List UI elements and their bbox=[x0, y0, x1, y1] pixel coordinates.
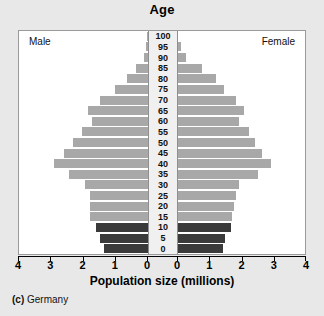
age-label-30: 30 bbox=[149, 180, 177, 190]
male-series-label: Male bbox=[29, 36, 51, 47]
age-label-45: 45 bbox=[149, 148, 177, 158]
bar-male-age-60 bbox=[92, 117, 148, 126]
bar-female-age-25 bbox=[176, 191, 236, 200]
bar-female-age-40 bbox=[176, 159, 271, 168]
age-label-35: 35 bbox=[149, 169, 177, 179]
female-panel bbox=[176, 31, 305, 254]
x-tick-label-left-4: 4 bbox=[8, 259, 28, 271]
chart-title: Age bbox=[0, 2, 324, 17]
x-axis-title: Population size (millions) bbox=[0, 274, 324, 288]
bar-male-age-70 bbox=[100, 96, 148, 105]
bar-female-age-60 bbox=[176, 117, 239, 126]
bar-female-age-10 bbox=[176, 223, 231, 232]
bar-female-age-0 bbox=[176, 244, 223, 253]
bar-male-age-55 bbox=[82, 127, 148, 136]
age-label-25: 25 bbox=[149, 191, 177, 201]
x-axis-line bbox=[18, 256, 306, 257]
bar-male-age-15 bbox=[90, 212, 148, 221]
age-label-10: 10 bbox=[149, 222, 177, 232]
bar-female-age-15 bbox=[176, 212, 232, 221]
bar-female-age-50 bbox=[176, 138, 255, 147]
bar-female-age-20 bbox=[176, 202, 234, 211]
age-label-80: 80 bbox=[149, 74, 177, 84]
population-pyramid-figure: Age Male Female 100959085807570656055504… bbox=[0, 0, 324, 316]
bar-male-age-75 bbox=[115, 85, 148, 94]
age-label-15: 15 bbox=[149, 212, 177, 222]
x-tick-label-right-4: 4 bbox=[296, 259, 316, 271]
age-label-65: 65 bbox=[149, 106, 177, 116]
plot-area: Male Female 1009590858075706560555045403… bbox=[18, 30, 306, 255]
bar-male-age-35 bbox=[69, 170, 148, 179]
bar-female-age-45 bbox=[176, 149, 262, 158]
bar-female-age-65 bbox=[176, 106, 244, 115]
age-label-85: 85 bbox=[149, 63, 177, 73]
age-label-5: 5 bbox=[149, 233, 177, 243]
age-label-0: 0 bbox=[149, 244, 177, 254]
caption-label: Germany bbox=[27, 294, 68, 305]
age-label-20: 20 bbox=[149, 201, 177, 211]
bar-male-age-10 bbox=[96, 223, 148, 232]
age-label-50: 50 bbox=[149, 138, 177, 148]
bar-male-age-80 bbox=[127, 74, 148, 83]
x-tick-label-right-1: 1 bbox=[199, 259, 219, 271]
bar-male-age-30 bbox=[85, 180, 148, 189]
x-tick-label-right-0: 0 bbox=[167, 259, 187, 271]
bar-female-age-75 bbox=[176, 85, 224, 94]
bar-female-age-30 bbox=[176, 180, 239, 189]
x-tick-label-left-3: 3 bbox=[40, 259, 60, 271]
bar-female-age-70 bbox=[176, 96, 236, 105]
bar-female-age-5 bbox=[176, 234, 225, 243]
bar-female-age-80 bbox=[176, 74, 216, 83]
age-label-90: 90 bbox=[149, 53, 177, 63]
bar-male-age-65 bbox=[88, 106, 148, 115]
bar-male-age-0 bbox=[104, 244, 148, 253]
age-label-95: 95 bbox=[149, 42, 177, 52]
bar-male-age-85 bbox=[136, 64, 148, 73]
age-label-100: 100 bbox=[149, 31, 177, 41]
age-label-70: 70 bbox=[149, 95, 177, 105]
bar-male-age-25 bbox=[90, 191, 148, 200]
x-tick-label-left-1: 1 bbox=[105, 259, 125, 271]
male-panel bbox=[19, 31, 148, 254]
age-axis-strip: 1009590858075706560555045403530252015105… bbox=[148, 31, 178, 254]
x-tick-label-right-2: 2 bbox=[232, 259, 252, 271]
x-tick-label-right-3: 3 bbox=[264, 259, 284, 271]
age-label-40: 40 bbox=[149, 159, 177, 169]
age-label-55: 55 bbox=[149, 127, 177, 137]
bar-female-age-85 bbox=[176, 64, 202, 73]
bar-male-age-40 bbox=[54, 159, 148, 168]
bar-male-age-45 bbox=[64, 149, 148, 158]
age-label-60: 60 bbox=[149, 116, 177, 126]
bar-male-age-50 bbox=[73, 138, 148, 147]
age-label-75: 75 bbox=[149, 84, 177, 94]
figure-caption: (c) Germany bbox=[12, 294, 68, 305]
bar-female-age-55 bbox=[176, 127, 249, 136]
x-tick-label-left-0: 0 bbox=[137, 259, 157, 271]
female-series-label: Female bbox=[262, 36, 295, 47]
x-tick-label-left-2: 2 bbox=[73, 259, 93, 271]
bar-male-age-5 bbox=[100, 234, 148, 243]
bar-male-age-20 bbox=[90, 202, 148, 211]
bar-female-age-35 bbox=[176, 170, 258, 179]
caption-index: (c) bbox=[12, 294, 24, 305]
